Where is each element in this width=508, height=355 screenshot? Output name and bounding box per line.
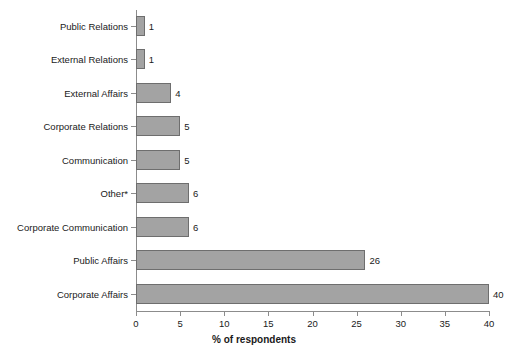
x-axis-tick [445,311,446,316]
x-axis-tick [224,311,225,316]
x-axis-tick-label: 5 [165,318,195,330]
bar [136,116,180,136]
bar-value-label: 5 [184,117,189,136]
bar-row: External Relations1 [136,43,489,76]
x-axis-tick [180,311,181,316]
bar [136,250,365,270]
bar-value-label: 1 [149,17,154,36]
x-axis-tick-label: 30 [386,318,416,330]
category-label: Communication [62,151,128,170]
x-axis-tick-label: 25 [342,318,372,330]
x-axis-tick [489,311,490,316]
category-label: Corporate Communication [17,218,128,237]
bar [136,83,171,103]
category-label: Corporate Relations [44,117,129,136]
bar-row: Public Relations1 [136,10,489,43]
bar-value-label: 4 [175,84,180,103]
bar-value-label: 6 [193,218,198,237]
x-axis-tick [357,311,358,316]
x-axis-tick-label: 15 [253,318,283,330]
plot-area: Public Relations1External Relations1Exte… [136,10,489,311]
bar [136,183,189,203]
bar-row: Corporate Affairs40 [136,278,489,311]
bar-row: Other*6 [136,177,489,210]
bar-value-label: 26 [369,251,380,270]
x-axis-tick-label: 10 [209,318,239,330]
bar-row: Communication5 [136,144,489,177]
x-axis-tick [268,311,269,316]
bar [136,284,489,304]
bar-row: Corporate Communication6 [136,211,489,244]
bar [136,49,145,69]
bar [136,217,189,237]
category-label: External Affairs [64,84,128,103]
bar-value-label: 6 [193,184,198,203]
x-axis-tick [401,311,402,316]
x-axis-tick-label: 0 [121,318,151,330]
x-axis-tick-label: 35 [430,318,460,330]
x-axis-tick-label: 20 [298,318,328,330]
bar [136,150,180,170]
x-axis-title: % of respondents [0,334,508,345]
bar-row: External Affairs4 [136,77,489,110]
category-label: Other* [101,184,128,203]
bar-row: Public Affairs26 [136,244,489,277]
bar-value-label: 5 [184,151,189,170]
bar-value-label: 40 [493,285,504,304]
x-axis-tick-label: 40 [474,318,504,330]
category-label: Public Affairs [73,251,128,270]
bar-value-label: 1 [149,50,154,69]
category-label: Public Relations [60,17,128,36]
bar [136,16,145,36]
bar-chart: Public Relations1External Relations1Exte… [0,0,508,355]
x-axis-tick [136,311,137,316]
category-label: Corporate Affairs [57,285,128,304]
bar-row: Corporate Relations5 [136,110,489,143]
category-label: External Relations [51,50,128,69]
x-axis-tick [313,311,314,316]
